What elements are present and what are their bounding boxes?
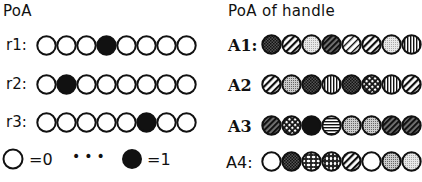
open-circle-icon — [116, 112, 137, 133]
diag-wide-pattern-circle-icon — [281, 34, 302, 55]
diag-wide-pattern-circle-icon — [401, 74, 422, 95]
crosshatch-dark-pattern-circle-icon — [341, 74, 362, 95]
handle-row-a3 — [261, 115, 422, 136]
open-circle-icon — [156, 35, 177, 56]
open-circle-icon — [96, 112, 117, 133]
open-circle-icon — [76, 112, 97, 133]
diag-dense-pattern-circle-icon — [381, 115, 402, 136]
poa-handle-title: PoA of handle — [228, 2, 335, 20]
row-label-r1: r1: — [6, 36, 27, 54]
open-circle-icon — [136, 74, 157, 95]
poa-title: PoA — [3, 2, 32, 20]
open-circle-icon — [156, 74, 177, 95]
legend-zero-label: =0 — [29, 150, 53, 169]
open-circle-icon — [116, 74, 137, 95]
handle-row-a1 — [261, 34, 422, 55]
dots-medium-pattern-circle-icon — [361, 115, 382, 136]
diag-dense-pattern-circle-icon — [321, 34, 342, 55]
vertical-pattern-circle-icon — [401, 34, 422, 55]
dots-light-pattern-circle-icon — [301, 34, 322, 55]
diag-dense-pattern-circle-icon — [401, 115, 422, 136]
open-circle-icon — [176, 35, 197, 56]
row-label-a4: A4: — [226, 153, 253, 172]
diag-wide-pattern-circle-icon — [341, 151, 362, 172]
horizontal-pattern-circle-icon — [321, 115, 342, 136]
crosshatch-dark-pattern-circle-icon — [281, 151, 302, 172]
legend-ellipsis: ••• — [72, 148, 109, 164]
open-circle-icon — [36, 74, 57, 95]
row-label-r2: r2: — [6, 75, 27, 93]
solid-pattern-circle-icon — [301, 115, 322, 136]
row-label-a1: A1: — [228, 36, 257, 55]
diag-thin-pattern-circle-icon — [341, 34, 362, 55]
open-circle-icon — [116, 35, 137, 56]
filled-circle-icon — [56, 74, 77, 95]
poa-row-r2 — [36, 74, 197, 95]
checker-pattern-circle-icon — [281, 115, 302, 136]
legend-one-label: =1 — [147, 150, 171, 169]
dots-medium-pattern-circle-icon — [341, 115, 362, 136]
open-circle-icon — [136, 35, 157, 56]
spots-h-pattern-circle-icon — [301, 151, 322, 172]
dots-light-pattern-circle-icon — [401, 151, 422, 172]
filled-circle-icon — [136, 112, 157, 133]
spots-v-pattern-circle-icon — [321, 151, 342, 172]
diag-dense-pattern-circle-icon — [261, 115, 282, 136]
vertical-pattern-circle-icon — [321, 74, 342, 95]
dots-medium-pattern-circle-icon — [381, 151, 402, 172]
legend-open-circle-icon — [2, 148, 24, 170]
dots-light-pattern-circle-icon — [381, 34, 402, 55]
legend-filled-circle-icon — [121, 148, 143, 170]
open-circle-icon — [36, 112, 57, 133]
open-circle-icon — [176, 74, 197, 95]
open-circle-icon — [96, 74, 117, 95]
handle-row-a2 — [261, 74, 422, 95]
open-circle-icon — [36, 35, 57, 56]
row-label-a2: A2 — [228, 76, 252, 95]
open-circle-icon — [56, 35, 77, 56]
poa-row-r1 — [36, 35, 197, 56]
vertical-pattern-circle-icon — [381, 74, 402, 95]
open-circle-icon — [176, 112, 197, 133]
white-pattern-circle-icon — [261, 151, 282, 172]
open-circle-icon — [156, 112, 177, 133]
white-pattern-circle-icon — [361, 151, 382, 172]
row-label-a3: A3 — [228, 117, 252, 136]
filled-circle-icon — [96, 35, 117, 56]
diag-wide-pattern-circle-icon — [261, 74, 282, 95]
dots-medium-pattern-circle-icon — [281, 74, 302, 95]
open-circle-icon — [56, 112, 77, 133]
poa-row-r3 — [36, 112, 197, 133]
crosshatch-dark-pattern-circle-icon — [301, 74, 322, 95]
crosshatch-dark-pattern-circle-icon — [261, 34, 282, 55]
diag-wide-pattern-circle-icon — [361, 34, 382, 55]
handle-row-a4 — [261, 151, 422, 172]
open-circle-icon — [76, 74, 97, 95]
checker-pattern-circle-icon — [361, 74, 382, 95]
open-circle-icon — [76, 35, 97, 56]
row-label-r3: r3: — [6, 113, 27, 131]
